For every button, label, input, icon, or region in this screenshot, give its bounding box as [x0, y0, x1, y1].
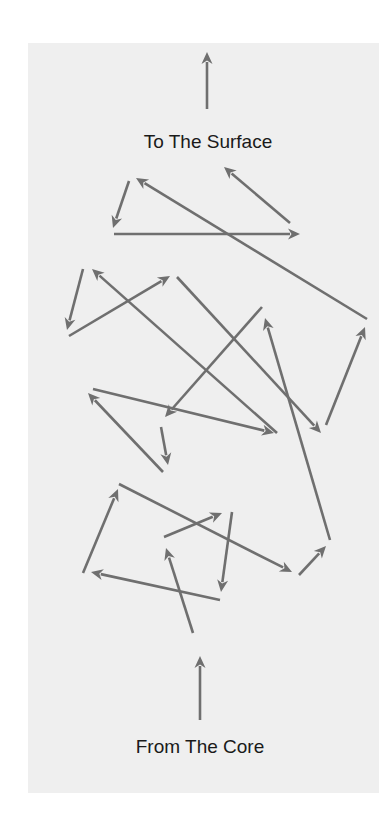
- arrow-k: [95, 400, 163, 472]
- arrow-layer: [65, 52, 367, 720]
- arrow-n: [268, 328, 330, 540]
- arrow-d: [145, 183, 367, 319]
- arrow-r: [222, 512, 232, 582]
- label-from-the-core: From The Core: [4, 737, 392, 756]
- arrow-g: [99, 276, 277, 433]
- arrow-u: [299, 553, 319, 575]
- arrow-o: [83, 498, 114, 573]
- arrow-e: [70, 269, 83, 320]
- arrow-a: [116, 181, 129, 219]
- random-walk-arrows: [0, 0, 392, 819]
- arrow-t: [169, 558, 193, 633]
- arrow-h: [177, 277, 314, 426]
- arrow-l: [161, 427, 166, 455]
- label-to-the-surface: To The Surface: [12, 132, 392, 151]
- arrow-i: [172, 307, 262, 409]
- arrow-m: [326, 336, 361, 425]
- arrow-c: [232, 173, 290, 223]
- arrow-s: [101, 574, 220, 600]
- arrow-p: [119, 484, 283, 567]
